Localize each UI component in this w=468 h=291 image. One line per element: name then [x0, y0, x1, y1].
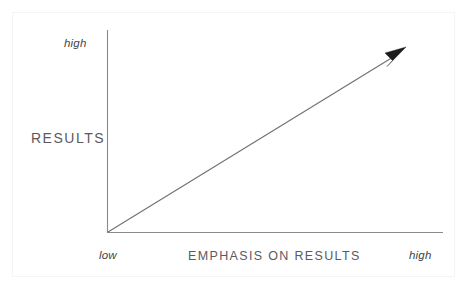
figure-root: high RESULTS low EMPHASIS ON RESULTS hig…	[0, 0, 468, 291]
trend-line	[108, 54, 398, 232]
y-axis-high-label: high	[64, 38, 87, 50]
arrow-head-icon	[385, 47, 406, 67]
x-axis-title: EMPHASIS ON RESULTS	[188, 250, 361, 263]
y-axis-title: RESULTS	[31, 131, 105, 145]
x-axis-low-label: low	[99, 250, 117, 262]
x-axis-high-label: high	[409, 250, 432, 262]
